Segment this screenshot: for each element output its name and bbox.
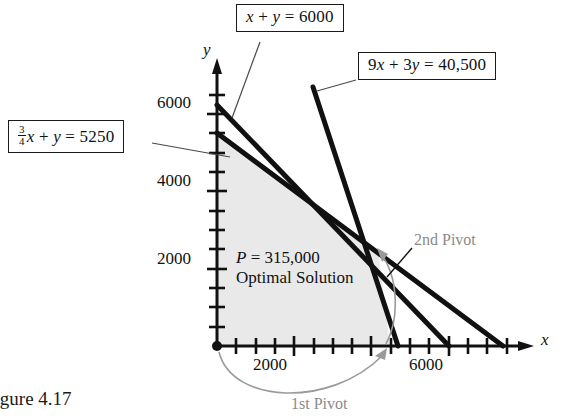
fraction-denominator: 4 [18, 135, 26, 147]
profit-value-text: P = 315,000 [236, 248, 354, 268]
y-axis-arrowhead [212, 58, 222, 74]
x-axis-label: x [541, 330, 549, 350]
leader-line-xy6000 [232, 42, 260, 118]
first-pivot-arc [219, 352, 382, 393]
y-tick-label-6000: 6000 [157, 93, 191, 113]
y-tick-label-2000: 2000 [157, 249, 191, 269]
x-tick-label-6000: 6000 [409, 355, 443, 375]
y-tick-label-4000: 4000 [157, 171, 191, 191]
x-tick-label-2000: 2000 [253, 355, 287, 375]
first-pivot-label: 1st Pivot [291, 395, 347, 413]
figure-caption: Figure 4.17 [0, 388, 72, 410]
first-pivot-arrowhead [375, 348, 387, 360]
second-pivot-label: 2nd Pivot [414, 231, 476, 249]
origin-point [212, 341, 222, 351]
callout-9x-plus-3y-equals-40500: 9x + 3y = 9x + 3y = 40,50040,500 [358, 52, 496, 80]
optimal-solution-label: P = 315,000 Optimal Solution [236, 248, 354, 289]
figure-4-17: x + y = x + y = 60006000 9x + 3y = 9x + … [0, 0, 562, 418]
optimal-solution-text: Optimal Solution [236, 268, 354, 288]
fraction-three-fourths: 3 4 [18, 124, 26, 147]
callout-x-plus-y-equals-6000: x + y = x + y = 60006000 [236, 4, 344, 32]
leader-line-9x3y [317, 80, 356, 91]
x-axis-arrowhead [518, 341, 534, 351]
callout-three-quarter-x-plus-y-equals-5250: 3 4 x + y = 5250 [8, 120, 124, 153]
fraction-numerator: 3 [18, 124, 26, 135]
y-axis-label: y [203, 40, 211, 60]
